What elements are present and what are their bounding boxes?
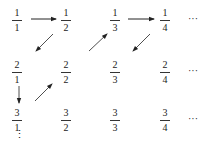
arrow-up-right-icon [89, 34, 107, 51]
arrow-down-left-icon [133, 34, 150, 51]
arrow-layer [0, 0, 204, 146]
arrow-down-left-icon [36, 34, 53, 51]
arrow-up-right-icon [35, 84, 52, 101]
